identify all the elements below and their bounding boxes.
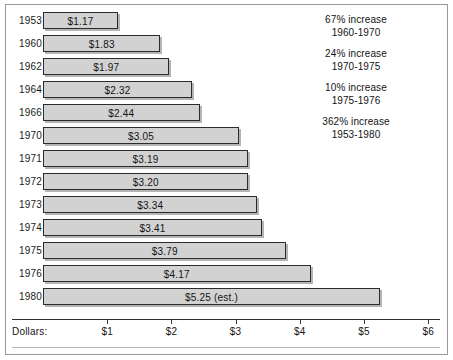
x-axis-tick <box>171 320 172 324</box>
bar: $5.25 (est.) <box>43 288 380 305</box>
bar: $4.17 <box>43 265 311 282</box>
bar: $3.20 <box>43 173 248 190</box>
bar-year-label: 1960 <box>12 35 42 53</box>
bar-year-label: 1976 <box>12 265 42 283</box>
x-axis-tick-label: $4 <box>285 326 315 337</box>
annotation-percent: 67% increase <box>300 14 412 27</box>
bar-value-label: $3.34 <box>44 197 256 214</box>
x-axis-tick-label: $5 <box>349 326 379 337</box>
bar: $3.41 <box>43 219 262 236</box>
bar-year-label: 1953 <box>12 12 42 30</box>
bar: $3.34 <box>43 196 257 213</box>
bar: $3.79 <box>43 242 286 259</box>
plot-area: 1953$1.171960$1.831962$1.971964$2.321966… <box>0 0 453 360</box>
bar-value-label: $2.44 <box>44 105 199 122</box>
annotation-period: 1970-1975 <box>300 61 412 74</box>
bar-value-label: $1.97 <box>44 59 168 76</box>
bar-year-label: 1970 <box>12 127 42 145</box>
annotation-note: 24% increase1970-1975 <box>300 48 412 73</box>
annotation-period: 1975-1976 <box>300 95 412 108</box>
bar-year-label: 1975 <box>12 242 42 260</box>
bar-year-label: 1962 <box>12 58 42 76</box>
bar-value-label: $3.79 <box>44 243 285 260</box>
x-axis-tick-label: $1 <box>92 326 122 337</box>
annotation-list: 67% increase1960-197024% increase1970-19… <box>300 14 412 150</box>
x-axis-tick <box>236 320 237 324</box>
bar-value-label: $3.20 <box>44 174 247 191</box>
bar-value-label: $4.17 <box>44 266 310 283</box>
annotation-period: 1953-1980 <box>300 129 412 142</box>
annotation-note: 10% increase1975-1976 <box>300 82 412 107</box>
x-axis-tick <box>107 320 108 324</box>
x-axis-tick <box>364 320 365 324</box>
x-axis-tick-label: $6 <box>413 326 443 337</box>
bar-value-label: $3.19 <box>44 151 247 168</box>
bar-year-label: 1972 <box>12 173 42 191</box>
bar-value-label: $2.32 <box>44 82 191 99</box>
bar: $3.19 <box>43 150 248 167</box>
bar-value-label: $1.83 <box>44 36 159 53</box>
x-axis-line <box>12 319 440 320</box>
bar-chart-figure: 1953$1.171960$1.831962$1.971964$2.321966… <box>0 0 453 360</box>
bar: $1.97 <box>43 58 169 75</box>
bottom-rule <box>12 347 440 348</box>
bar-year-label: 1966 <box>12 104 42 122</box>
x-axis-label: Dollars: <box>12 326 48 337</box>
bar-year-label: 1980 <box>12 288 42 306</box>
x-axis-tick-label: $3 <box>221 326 251 337</box>
bar-year-label: 1974 <box>12 219 42 237</box>
bar: $1.17 <box>43 12 118 29</box>
annotation-note: 362% increase1953-1980 <box>300 116 412 141</box>
x-axis-tick <box>428 320 429 324</box>
bar-value-label: $3.41 <box>44 220 261 237</box>
bar: $2.44 <box>43 104 200 121</box>
bar-year-label: 1973 <box>12 196 42 214</box>
bar: $2.32 <box>43 81 192 98</box>
annotation-percent: 10% increase <box>300 82 412 95</box>
bar-value-label: $1.17 <box>44 13 117 30</box>
bar: $3.05 <box>43 127 239 144</box>
bar: $1.83 <box>43 35 160 52</box>
bar-value-label: $3.05 <box>44 128 238 145</box>
annotation-period: 1960-1970 <box>300 27 412 40</box>
bar-value-label: $5.25 (est.) <box>44 289 379 306</box>
annotation-percent: 362% increase <box>300 116 412 129</box>
x-axis-tick <box>300 320 301 324</box>
annotation-note: 67% increase1960-1970 <box>300 14 412 39</box>
bar-year-label: 1971 <box>12 150 42 168</box>
annotation-percent: 24% increase <box>300 48 412 61</box>
bar-year-label: 1964 <box>12 81 42 99</box>
x-axis-tick-label: $2 <box>156 326 186 337</box>
